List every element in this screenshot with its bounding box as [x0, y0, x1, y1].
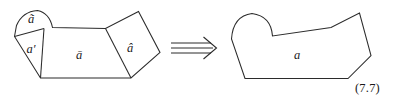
- left-region-outline: [15, 11, 161, 79]
- implies-arrow-icon: [171, 37, 217, 59]
- region-label-hat-a: â: [127, 41, 133, 55]
- divider-a-prime-bar-a: [41, 29, 45, 79]
- right-merged-region: a: [232, 13, 372, 79]
- divider-tilde-a-chord: [15, 29, 45, 37]
- region-label-a: a: [294, 48, 300, 62]
- region-label-tilde-a: ã: [28, 12, 35, 26]
- equation-number: (7.7): [355, 81, 380, 96]
- region-label-a-prime: a′: [27, 42, 36, 56]
- figure-svg: ã a′ ā â a: [0, 0, 397, 104]
- left-decomposed-region: ã a′ ā â: [15, 11, 161, 79]
- figure-container: ã a′ ā â a (7.7): [0, 0, 397, 104]
- right-region-outline: [232, 13, 372, 79]
- region-label-bar-a: ā: [76, 48, 82, 62]
